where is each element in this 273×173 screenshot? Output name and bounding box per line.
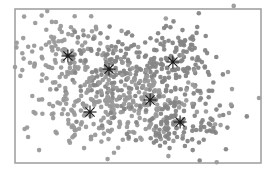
data-point	[160, 67, 165, 72]
data-point	[62, 38, 67, 43]
data-point	[129, 105, 134, 110]
data-point	[157, 94, 162, 99]
data-point	[54, 52, 59, 57]
data-point-outlier	[230, 87, 235, 92]
data-point	[93, 83, 98, 88]
data-point	[218, 103, 223, 108]
data-point	[132, 78, 137, 83]
data-point-outlier	[231, 4, 236, 9]
data-point	[64, 91, 69, 96]
data-point	[126, 135, 131, 140]
data-point	[166, 126, 171, 131]
data-point	[126, 120, 131, 125]
data-point	[156, 31, 161, 36]
data-point	[97, 47, 102, 52]
data-point	[106, 137, 111, 142]
data-point	[98, 41, 103, 46]
data-point	[174, 96, 179, 101]
data-point	[149, 57, 154, 62]
data-point	[204, 109, 209, 114]
data-point	[138, 105, 143, 110]
data-point	[183, 144, 188, 149]
data-point	[73, 71, 78, 76]
data-point	[116, 145, 121, 150]
data-point	[194, 31, 199, 36]
data-point	[59, 65, 64, 70]
data-point	[171, 19, 176, 24]
data-point	[185, 139, 190, 144]
data-point	[49, 45, 54, 50]
data-point	[50, 112, 55, 117]
data-point	[210, 118, 215, 123]
data-point	[22, 14, 27, 19]
data-point	[125, 125, 130, 130]
data-point	[205, 129, 210, 134]
data-point	[154, 124, 159, 129]
data-point	[122, 102, 127, 107]
data-point	[31, 110, 36, 115]
data-point	[203, 34, 208, 39]
data-point	[165, 117, 170, 122]
data-point	[44, 43, 49, 48]
data-point	[158, 75, 163, 80]
data-point	[107, 104, 112, 109]
data-point	[137, 116, 142, 121]
data-point	[182, 109, 187, 114]
data-point	[143, 91, 148, 96]
data-point	[98, 31, 103, 36]
data-point	[72, 80, 77, 85]
data-point	[148, 118, 153, 123]
data-point	[89, 135, 94, 140]
centroid-asterisk-icon	[61, 50, 74, 63]
data-point	[115, 104, 120, 109]
data-point	[161, 94, 166, 99]
data-point	[74, 119, 79, 124]
data-point	[160, 107, 165, 112]
data-point	[144, 108, 149, 113]
data-point	[146, 79, 151, 84]
data-point	[130, 66, 135, 71]
data-point	[190, 56, 195, 61]
data-point	[148, 123, 153, 128]
data-point	[72, 14, 77, 19]
data-point	[218, 123, 223, 128]
data-point	[127, 91, 132, 96]
data-point	[78, 48, 83, 53]
data-point-outlier	[226, 70, 231, 75]
data-point	[166, 132, 171, 137]
data-point	[94, 69, 99, 74]
data-point	[120, 60, 125, 65]
data-point	[30, 49, 35, 54]
data-point	[105, 52, 110, 57]
data-point	[162, 76, 167, 81]
data-point	[162, 47, 167, 52]
data-point	[194, 58, 199, 63]
data-point	[85, 65, 90, 70]
data-point	[84, 91, 89, 96]
data-point	[144, 53, 149, 58]
data-point	[168, 25, 173, 30]
data-point	[134, 83, 139, 88]
data-point-outlier	[164, 16, 169, 21]
data-point	[40, 56, 45, 61]
data-point	[159, 57, 164, 62]
data-point	[174, 73, 179, 78]
data-point	[77, 98, 82, 103]
data-point	[72, 112, 77, 117]
data-point	[101, 116, 106, 121]
data-point	[32, 61, 37, 66]
data-point	[20, 51, 25, 56]
data-point	[143, 127, 148, 132]
centroid-asterisk-icon	[84, 106, 97, 119]
data-point	[172, 104, 177, 109]
data-point	[103, 110, 108, 115]
data-point	[79, 122, 84, 127]
data-point	[126, 96, 131, 101]
data-point	[119, 29, 124, 34]
data-point	[143, 40, 148, 45]
data-point	[121, 137, 126, 142]
data-point	[95, 52, 100, 57]
data-point	[92, 103, 97, 108]
data-point	[82, 146, 87, 151]
data-point	[44, 63, 49, 68]
